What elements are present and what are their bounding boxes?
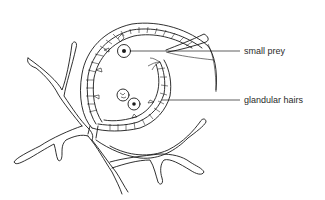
label-small-prey: small prey [244, 46, 286, 56]
label-glandular-hairs: glandular hairs [244, 95, 304, 105]
prey-organisms [117, 45, 140, 111]
bladder-trap-diagram: small prey glandular hairs [0, 0, 325, 200]
branching-stem [14, 42, 206, 194]
bladder-wall [80, 23, 216, 138]
